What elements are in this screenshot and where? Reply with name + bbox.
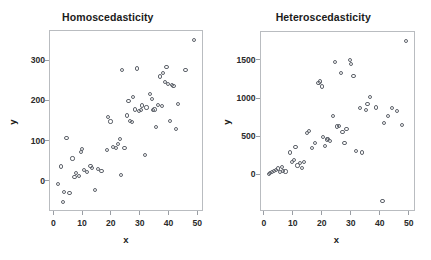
panel-homoscedasticity: Homoscedasticity 0100200300 01020304050 … xyxy=(0,0,216,260)
scatter-point xyxy=(307,129,311,133)
scatter-point xyxy=(64,136,68,140)
scatter-point xyxy=(344,127,348,131)
scatter-point xyxy=(161,71,165,75)
scatter-point xyxy=(143,153,147,157)
scatter-point xyxy=(358,106,362,110)
scatter-point xyxy=(404,39,408,43)
scatter-point xyxy=(368,95,372,99)
scatter-point xyxy=(164,65,168,69)
scatter-point xyxy=(183,68,187,72)
scatter-point xyxy=(130,120,134,124)
y-axis-label-left: y xyxy=(7,119,18,124)
scatter-point xyxy=(349,62,353,66)
x-tick-mark xyxy=(168,211,169,215)
x-tick-label: 10 xyxy=(77,218,87,228)
x-tick-label: 30 xyxy=(135,218,145,228)
scatter-point xyxy=(85,170,89,174)
scatter-point xyxy=(77,174,81,178)
scatter-point xyxy=(62,190,66,194)
scatter-point xyxy=(354,149,358,153)
scatter-point xyxy=(131,95,135,99)
scatter-points-homoscedasticity xyxy=(50,31,202,210)
scatter-point xyxy=(313,141,317,145)
scatter-point xyxy=(364,108,368,112)
scatter-point xyxy=(328,139,332,143)
scatter-point xyxy=(374,105,378,109)
scatter-point xyxy=(148,92,152,96)
scatter-point xyxy=(105,148,109,152)
scatter-point xyxy=(351,74,355,78)
scatter-points-heteroscedasticity xyxy=(261,32,414,210)
scatter-point xyxy=(154,125,158,129)
x-tick-label: 50 xyxy=(192,218,202,228)
x-tick-mark xyxy=(197,211,198,215)
scatter-point xyxy=(116,142,120,146)
scatter-point xyxy=(293,145,297,149)
scatter-point xyxy=(108,119,112,123)
x-tick-mark xyxy=(139,211,140,215)
x-tick-mark xyxy=(321,211,322,215)
x-tick-label: 40 xyxy=(164,218,174,228)
scatter-point xyxy=(152,107,156,111)
scatter-point xyxy=(114,146,118,150)
scatter-point xyxy=(56,182,60,186)
scatter-point xyxy=(118,137,122,141)
scatter-point xyxy=(192,38,196,42)
scatter-point xyxy=(283,169,287,173)
scatter-point xyxy=(176,102,180,106)
scatter-point xyxy=(288,150,292,154)
scatter-point xyxy=(61,200,65,204)
scatter-point xyxy=(380,199,384,203)
scatter-point xyxy=(122,146,126,150)
scatter-point xyxy=(382,121,386,125)
scatter-point xyxy=(59,164,63,168)
scatter-point xyxy=(400,123,404,127)
scatter-point xyxy=(390,106,394,110)
x-tick-label: 50 xyxy=(404,218,414,228)
x-tick-label: 40 xyxy=(375,218,385,228)
scatter-point xyxy=(310,146,314,150)
scatter-point xyxy=(386,114,390,118)
scatter-point xyxy=(72,175,76,179)
x-tick-label: 20 xyxy=(106,218,116,228)
scatter-point xyxy=(126,99,130,103)
scatter-point xyxy=(174,127,178,131)
x-tick-mark xyxy=(82,211,83,215)
x-tick-label: 0 xyxy=(261,218,266,228)
x-tick-mark xyxy=(408,211,409,215)
scatter-point xyxy=(302,160,306,164)
scatter-point xyxy=(300,166,304,170)
scatter-point xyxy=(144,105,148,109)
plot-area-heteroscedasticity xyxy=(260,31,415,211)
scatter-point xyxy=(395,109,399,113)
scatter-point xyxy=(323,144,327,148)
x-tick-label: 10 xyxy=(288,218,298,228)
scatter-point xyxy=(67,191,71,195)
x-tick-mark xyxy=(53,211,54,215)
scatter-point xyxy=(139,108,143,112)
scatter-point xyxy=(93,188,97,192)
scatter-point xyxy=(120,68,124,72)
scatter-point xyxy=(99,169,103,173)
scatter-point xyxy=(168,119,172,123)
x-tick-mark xyxy=(110,211,111,215)
scatter-point xyxy=(337,124,341,128)
scatter-point xyxy=(135,66,139,70)
x-axis-label-right: x xyxy=(334,234,339,245)
x-tick-mark xyxy=(350,211,351,215)
scatter-figure: Homoscedasticity 0100200300 01020304050 … xyxy=(0,0,431,260)
x-tick-label: 30 xyxy=(346,218,356,228)
scatter-point xyxy=(339,71,343,75)
scatter-point xyxy=(90,166,94,170)
scatter-point xyxy=(80,147,84,151)
scatter-point xyxy=(125,113,129,117)
scatter-point xyxy=(292,158,296,162)
x-tick-mark xyxy=(263,211,264,215)
x-axis-label-left: x xyxy=(123,234,128,245)
panel-heteroscedasticity: Heteroscedasticity 050010001500 01020304… xyxy=(216,0,431,260)
x-tick-label: 0 xyxy=(51,218,56,228)
scatter-point xyxy=(331,114,335,118)
x-tick-label: 20 xyxy=(317,218,327,228)
scatter-point xyxy=(70,156,74,160)
plot-area-homoscedasticity xyxy=(49,30,203,211)
